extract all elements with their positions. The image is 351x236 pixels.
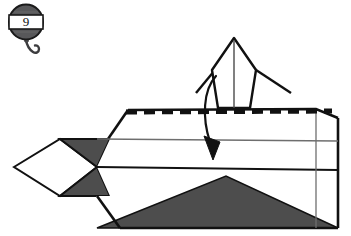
step-badge: 9	[9, 5, 43, 53]
flap-wing-right	[253, 68, 291, 93]
origami-step-diagram: 9	[0, 0, 351, 236]
step-number: 9	[23, 14, 30, 29]
origami-diagram-canvas: 9	[0, 0, 351, 236]
origami-model	[14, 38, 338, 228]
upright-flap	[196, 38, 291, 108]
